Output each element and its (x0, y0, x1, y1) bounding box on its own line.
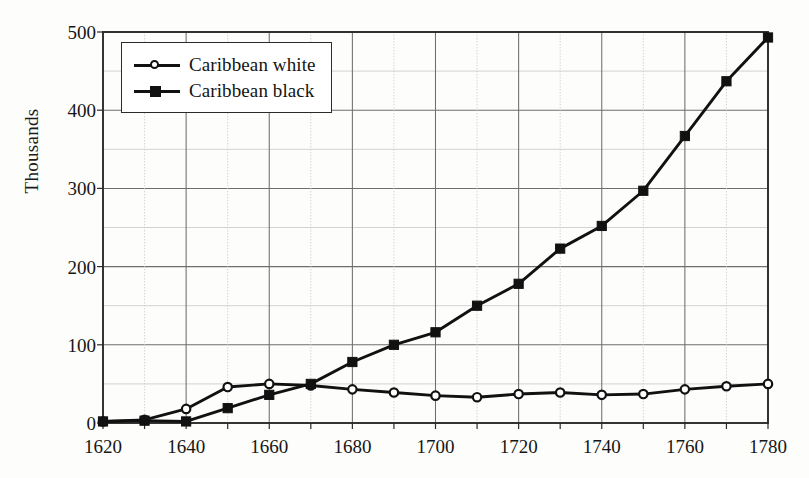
filled-square-marker-icon (134, 82, 180, 100)
x-tick-label: 1700 (396, 437, 476, 456)
line-chart-figure: Thousands 0100200300400500 1620164016601… (0, 0, 809, 478)
chart-legend: Caribbean white Caribbean black (121, 42, 332, 113)
x-tick-label: 1780 (728, 437, 808, 456)
x-tick-label: 1680 (312, 437, 392, 456)
open-circle-marker-icon (134, 56, 180, 74)
x-tick-label: 1620 (63, 437, 143, 456)
x-tick-label: 1720 (479, 437, 559, 456)
x-tick-label: 1660 (229, 437, 309, 456)
legend-entry-caribbean-black: Caribbean black (134, 78, 331, 104)
x-tick-label: 1740 (562, 437, 642, 456)
legend-label-caribbean-white: Caribbean white (180, 54, 316, 76)
x-tick-label: 1760 (645, 437, 725, 456)
legend-label-caribbean-black: Caribbean black (180, 80, 314, 102)
x-tick-label: 1640 (146, 437, 226, 456)
legend-entry-caribbean-white: Caribbean white (134, 52, 331, 78)
chart-page: Thousands 0100200300400500 1620164016601… (0, 0, 809, 478)
